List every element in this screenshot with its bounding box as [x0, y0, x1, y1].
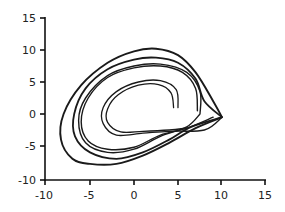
y-tick-label: -5 — [25, 140, 36, 153]
y-tick-label: 10 — [22, 44, 36, 57]
y-tick-label: 5 — [29, 76, 36, 89]
x-tick-label: 5 — [175, 189, 182, 202]
x-tick-label: 15 — [258, 189, 272, 202]
x-tick-labels: -10 -5 0 5 10 15 — [35, 189, 272, 202]
y-tick-label: 15 — [22, 12, 36, 25]
x-tick-label: -5 — [84, 189, 95, 202]
y-tick-label: 0 — [29, 108, 36, 121]
trajectory-curves — [60, 49, 222, 165]
y-tick-labels: 15 10 5 0 -5 -10 — [18, 12, 36, 187]
y-tick-label: -10 — [18, 174, 36, 187]
x-tick-label: -10 — [35, 189, 53, 202]
trajectory-inner-loop-A — [102, 80, 222, 136]
phase-portrait-chart: 15 10 5 0 -5 -10 -10 -5 0 5 10 15 — [0, 0, 285, 212]
x-tick-label: 10 — [214, 189, 228, 202]
x-tick-label: 0 — [131, 189, 138, 202]
